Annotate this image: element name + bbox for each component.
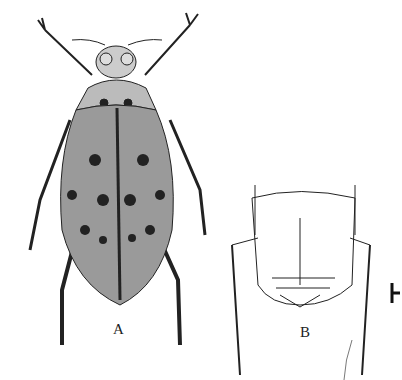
abdomen-ventral-view (232, 185, 370, 375)
figure-illustration (0, 0, 402, 380)
scale-bar (392, 283, 400, 303)
panel-label-a: A (113, 321, 124, 338)
panel-label-b: B (300, 324, 310, 341)
beetle-dorsal-view (30, 13, 205, 345)
